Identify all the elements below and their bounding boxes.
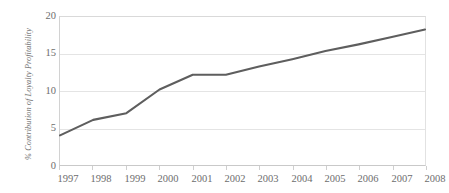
y-axis-title: % Contribution of Loyalty Profitability: [22, 8, 36, 180]
y-tick-label: 20: [36, 11, 56, 21]
line-chart: % Contribution of Loyalty Profitability …: [0, 0, 449, 193]
x-tick: [426, 166, 427, 170]
x-tick: [193, 166, 194, 170]
x-tick-label: 2008: [415, 172, 449, 186]
x-tick: [126, 166, 127, 170]
x-tick: [259, 166, 260, 170]
data-polyline: [60, 30, 425, 136]
y-tick-label: 15: [36, 48, 56, 58]
x-tick: [226, 166, 227, 170]
x-tick: [293, 166, 294, 170]
y-tick-label: 10: [36, 86, 56, 96]
y-axis-tick-labels: 20 15 10 5 0: [36, 0, 56, 193]
x-tick: [393, 166, 394, 170]
x-tick: [159, 166, 160, 170]
x-tick: [59, 166, 60, 170]
x-axis-tick-labels: 1997 1998 1999 2000 2001 2002 2003 2004 …: [59, 172, 426, 188]
data-line-series: [60, 17, 425, 165]
y-tick-label: 0: [36, 161, 56, 171]
y-tick-label: 5: [36, 123, 56, 133]
x-tick: [92, 166, 93, 170]
plot-area: [59, 16, 426, 166]
x-tick: [326, 166, 327, 170]
x-tick: [359, 166, 360, 170]
